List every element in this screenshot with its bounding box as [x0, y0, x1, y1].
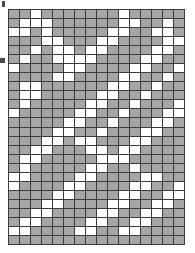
chart-cell[interactable]: [86, 73, 96, 81]
chart-cell[interactable]: [97, 200, 107, 208]
chart-cell[interactable]: [75, 209, 85, 217]
chart-cell[interactable]: [20, 227, 30, 235]
chart-cell[interactable]: [97, 227, 107, 235]
chart-cell[interactable]: [9, 37, 19, 45]
chart-cell[interactable]: [75, 64, 85, 72]
chart-cell[interactable]: [64, 209, 74, 217]
chart-cell[interactable]: [97, 73, 107, 81]
chart-cell[interactable]: [174, 118, 184, 126]
chart-cell[interactable]: [86, 109, 96, 117]
chart-cell[interactable]: [53, 73, 63, 81]
chart-cell[interactable]: [31, 73, 41, 81]
chart-cell[interactable]: [20, 109, 30, 117]
chart-cell[interactable]: [75, 227, 85, 235]
chart-cell[interactable]: [141, 118, 151, 126]
chart-cell[interactable]: [31, 118, 41, 126]
chart-cell[interactable]: [141, 164, 151, 172]
chart-cell[interactable]: [174, 100, 184, 108]
chart-cell[interactable]: [75, 146, 85, 154]
chart-cell[interactable]: [9, 137, 19, 145]
chart-cell[interactable]: [42, 109, 52, 117]
chart-cell[interactable]: [163, 128, 173, 136]
chart-cell[interactable]: [86, 155, 96, 163]
chart-cell[interactable]: [20, 73, 30, 81]
chart-cell[interactable]: [97, 37, 107, 45]
chart-cell[interactable]: [97, 209, 107, 217]
chart-cell[interactable]: [64, 146, 74, 154]
chart-cell[interactable]: [75, 173, 85, 181]
chart-cell[interactable]: [97, 128, 107, 136]
chart-cell[interactable]: [108, 209, 118, 217]
chart-cell[interactable]: [130, 155, 140, 163]
chart-cell[interactable]: [9, 146, 19, 154]
chart-cell[interactable]: [64, 173, 74, 181]
chart-cell[interactable]: [20, 55, 30, 63]
chart-cell[interactable]: [119, 91, 129, 99]
chart-cell[interactable]: [53, 128, 63, 136]
chart-cell[interactable]: [152, 28, 162, 36]
chart-cell[interactable]: [86, 64, 96, 72]
chart-cell[interactable]: [53, 173, 63, 181]
chart-cell[interactable]: [9, 91, 19, 99]
chart-cell[interactable]: [75, 19, 85, 27]
chart-cell[interactable]: [64, 191, 74, 199]
chart-cell[interactable]: [20, 64, 30, 72]
chart-cell[interactable]: [174, 191, 184, 199]
chart-cell[interactable]: [64, 82, 74, 90]
chart-cell[interactable]: [152, 91, 162, 99]
chart-cell[interactable]: [119, 173, 129, 181]
chart-cell[interactable]: [31, 146, 41, 154]
chart-cell[interactable]: [141, 128, 151, 136]
chart-cell[interactable]: [141, 227, 151, 235]
chart-cell[interactable]: [97, 46, 107, 54]
chart-cell[interactable]: [31, 46, 41, 54]
chart-cell[interactable]: [20, 19, 30, 27]
chart-cell[interactable]: [108, 236, 118, 244]
chart-cell[interactable]: [31, 227, 41, 235]
chart-cell[interactable]: [75, 46, 85, 54]
chart-cell[interactable]: [53, 28, 63, 36]
chart-cell[interactable]: [108, 19, 118, 27]
chart-cell[interactable]: [174, 37, 184, 45]
chart-cell[interactable]: [152, 82, 162, 90]
chart-cell[interactable]: [119, 227, 129, 235]
chart-cell[interactable]: [31, 64, 41, 72]
chart-cell[interactable]: [119, 100, 129, 108]
chart-cell[interactable]: [108, 37, 118, 45]
chart-cell[interactable]: [130, 19, 140, 27]
chart-cell[interactable]: [64, 227, 74, 235]
chart-cell[interactable]: [163, 100, 173, 108]
chart-cell[interactable]: [174, 209, 184, 217]
chart-cell[interactable]: [130, 64, 140, 72]
chart-cell[interactable]: [141, 100, 151, 108]
chart-cell[interactable]: [75, 182, 85, 190]
chart-cell[interactable]: [42, 200, 52, 208]
chart-cell[interactable]: [42, 28, 52, 36]
chart-cell[interactable]: [97, 19, 107, 27]
chart-cell[interactable]: [97, 28, 107, 36]
chart-cell[interactable]: [152, 37, 162, 45]
chart-cell[interactable]: [174, 55, 184, 63]
chart-cell[interactable]: [75, 37, 85, 45]
chart-cell[interactable]: [152, 73, 162, 81]
chart-cell[interactable]: [42, 91, 52, 99]
chart-cell[interactable]: [152, 236, 162, 244]
chart-cell[interactable]: [75, 155, 85, 163]
chart-cell[interactable]: [31, 37, 41, 45]
chart-cell[interactable]: [86, 91, 96, 99]
chart-cell[interactable]: [20, 173, 30, 181]
chart-cell[interactable]: [53, 46, 63, 54]
chart-cell[interactable]: [53, 236, 63, 244]
chart-cell[interactable]: [97, 91, 107, 99]
chart-cell[interactable]: [108, 227, 118, 235]
chart-cell[interactable]: [75, 28, 85, 36]
chart-cell[interactable]: [75, 128, 85, 136]
chart-cell[interactable]: [20, 155, 30, 163]
chart-cell[interactable]: [42, 82, 52, 90]
chart-cell[interactable]: [75, 191, 85, 199]
chart-cell[interactable]: [31, 91, 41, 99]
chart-cell[interactable]: [97, 191, 107, 199]
chart-cell[interactable]: [108, 118, 118, 126]
chart-cell[interactable]: [130, 191, 140, 199]
chart-cell[interactable]: [53, 19, 63, 27]
